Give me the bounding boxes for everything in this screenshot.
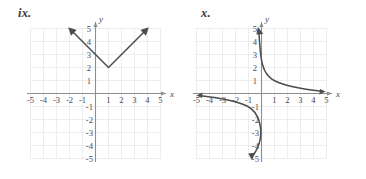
y-tick-ix-6: -2 [86, 115, 93, 125]
y-axis-arrowhead-ix [93, 22, 97, 27]
graph-ix: x y -5 -4 -3 -2 -1 1 2 3 4 5 5 4 3 2 1 -… [0, 0, 183, 179]
y-tick-x-1: 4 [253, 37, 258, 47]
y-tick-ix-9: -5 [86, 154, 93, 164]
x-tick-ix-0: -5 [27, 95, 34, 105]
x-axis-label-ix: x [169, 89, 174, 99]
x-tick-x-8: 4 [311, 95, 316, 105]
y-tick-x-4: 1 [253, 76, 257, 86]
figure-pair: ix. [0, 0, 366, 179]
y-tick-ix-8: -4 [86, 141, 94, 151]
curve-hyperbola-upper-x [256, 27, 325, 95]
y-tick-ix-3: 2 [87, 63, 91, 73]
y-tick-x-0: 5 [253, 24, 257, 34]
x-tick-x-9: 5 [324, 95, 328, 105]
y-tick-ix-1: 4 [87, 37, 92, 47]
x-tick-ix-2: -3 [53, 95, 60, 105]
x-tick-ix-1: -4 [40, 95, 48, 105]
x-tick-ix-8: 4 [145, 95, 150, 105]
y-tick-x-7: -3 [252, 128, 259, 138]
x-tick-x-5: 1 [272, 95, 276, 105]
x-tick-x-7: 3 [298, 95, 302, 105]
y-tick-ix-0: 5 [87, 24, 91, 34]
x-tick-ix-3: -2 [66, 95, 73, 105]
y-tick-ix-4: 1 [87, 76, 91, 86]
y-axis-arrowhead-x [259, 22, 263, 27]
x-tick-ix-5: 1 [106, 95, 110, 105]
y-axis-label-ix: y [98, 14, 103, 24]
x-tick-ix-7: 3 [132, 95, 136, 105]
y-tick-ix-7: -3 [86, 128, 93, 138]
x-tick-ix-6: 2 [119, 95, 123, 105]
graph-x: x y -5 -4 -3 -2 -1 1 2 3 4 5 5 4 3 2 1 -… [183, 0, 366, 179]
x-tick-x-3: -2 [232, 95, 239, 105]
y-tick-x-2: 3 [253, 50, 257, 60]
x-tick-ix-9: 5 [158, 95, 162, 105]
x-axis-label-x: x [335, 89, 340, 99]
figure-panel-x: x. [183, 0, 366, 179]
figure-panel-ix: ix. [0, 0, 183, 179]
y-tick-ix-2: 3 [87, 50, 91, 60]
y-axis-label-x: y [264, 14, 269, 24]
y-tick-x-3: 2 [253, 63, 257, 73]
curve-arrowhead-upper-top-x [256, 27, 263, 35]
x-tick-x-6: 2 [285, 95, 289, 105]
y-tick-ix-5: -1 [86, 102, 93, 112]
